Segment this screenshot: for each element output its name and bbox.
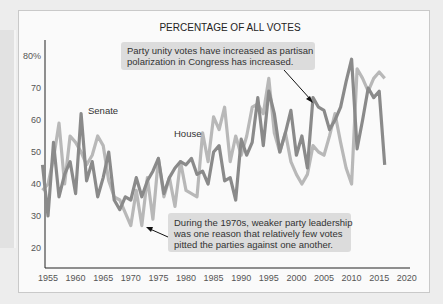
x-tick-label: 1995 bbox=[259, 273, 279, 283]
x-tick-label: 1975 bbox=[148, 273, 168, 283]
svg-text:During the 1970s, weaker party: During the 1970s, weaker party leadershi… bbox=[174, 217, 353, 228]
house-line bbox=[43, 69, 385, 226]
y-tick-label: 30 bbox=[31, 211, 41, 221]
x-tick-label: 2015 bbox=[369, 273, 389, 283]
x-tick-label: 1980 bbox=[176, 273, 196, 283]
svg-text:Party unity votes have increas: Party unity votes have increased as part… bbox=[127, 45, 313, 56]
x-tick-label: 1960 bbox=[66, 273, 86, 283]
x-tick-label: 1985 bbox=[204, 273, 224, 283]
svg-text:was one reason that relatively: was one reason that relatively few votes bbox=[173, 228, 343, 239]
x-tick-label: 2005 bbox=[314, 273, 334, 283]
arrow-head-icon bbox=[146, 227, 153, 232]
svg-text:polarization in Congress has i: polarization in Congress has increased. bbox=[127, 56, 293, 67]
chart-title: PERCENTAGE OF ALL VOTES bbox=[159, 22, 300, 33]
svg-text:pitted the parties against one: pitted the parties against one another. bbox=[174, 239, 333, 250]
line-chart: PERCENTAGE OF ALL VOTES 80%706050403020 … bbox=[0, 0, 443, 304]
x-tick-label: 1990 bbox=[231, 273, 251, 283]
y-tick-label: 70 bbox=[31, 83, 41, 93]
annotation-bottom: During the 1970s, weaker party leadershi… bbox=[146, 213, 353, 252]
y-tick-label: 20 bbox=[31, 243, 41, 253]
x-tick-label: 1965 bbox=[93, 273, 113, 283]
x-tick-label: 2010 bbox=[342, 273, 362, 283]
y-tick-label: 40 bbox=[31, 179, 41, 189]
x-tick-label: 1970 bbox=[121, 273, 141, 283]
x-tick-label: 2000 bbox=[286, 273, 306, 283]
y-tick-label: 80% bbox=[23, 51, 41, 61]
y-tick-label: 50 bbox=[31, 147, 41, 157]
y-axis-ticks: 80%706050403020 bbox=[23, 51, 41, 253]
x-tick-label: 2020 bbox=[397, 273, 417, 283]
x-tick-label: 1955 bbox=[38, 273, 58, 283]
x-axis-ticks: 1955196019651970197519801985199019952000… bbox=[38, 273, 417, 283]
y-tick-label: 60 bbox=[31, 115, 41, 125]
senate-line bbox=[43, 59, 385, 216]
senate-label: Senate bbox=[88, 105, 118, 116]
house-label: House bbox=[174, 128, 201, 139]
annotation-top: Party unity votes have increased as part… bbox=[121, 42, 315, 103]
